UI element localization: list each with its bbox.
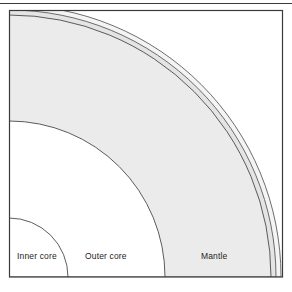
earth-cross-section-diagram xyxy=(0,0,292,292)
inner-core-label: Inner core xyxy=(17,252,57,261)
earth-interior-figure: Inner core Outer core Mantle xyxy=(0,0,292,292)
outer-core-label: Outer core xyxy=(85,252,127,261)
mantle-label: Mantle xyxy=(201,252,227,261)
